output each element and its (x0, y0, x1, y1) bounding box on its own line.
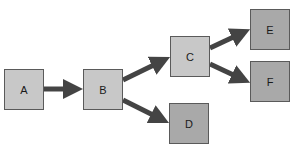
node-b-label: B (99, 84, 106, 96)
node-a: A (4, 69, 44, 110)
node-c: C (170, 36, 210, 77)
node-e-label: E (266, 24, 273, 36)
node-d-label: D (185, 118, 193, 130)
node-f: F (250, 61, 290, 102)
node-e: E (250, 9, 290, 50)
edge-b-to-c (123, 61, 162, 80)
node-b: B (83, 69, 123, 110)
node-a-label: A (20, 84, 27, 96)
node-d: D (169, 103, 209, 144)
node-f-label: F (267, 76, 274, 88)
node-c-label: C (186, 51, 194, 63)
edge-c-to-e (210, 33, 242, 48)
edge-b-to-d (123, 100, 161, 119)
edge-c-to-f (210, 64, 242, 79)
diagram-canvas: A B C D E F (0, 0, 294, 146)
